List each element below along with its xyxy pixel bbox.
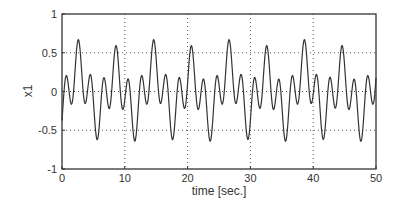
- y-tick-label: 0: [51, 86, 57, 98]
- x-tick-label: 50: [370, 172, 382, 184]
- x-tick-label: 0: [59, 172, 65, 184]
- y-tick-label: 1: [51, 8, 57, 20]
- series-x1-line: [62, 40, 376, 142]
- y-tick-label: 0.5: [42, 47, 57, 59]
- y-axis-ticks: -1-0.500.51: [38, 8, 65, 175]
- x-tick-label: 20: [181, 172, 193, 184]
- line-chart: 01020304050 -1-0.500.51 time [sec.] x1: [0, 0, 399, 214]
- x-axis-label: time [sec.]: [192, 184, 247, 198]
- x-tick-label: 40: [307, 172, 319, 184]
- grid-lines: [62, 14, 376, 169]
- y-axis-label: x1: [21, 84, 35, 97]
- x-tick-label: 10: [119, 172, 131, 184]
- y-tick-label: -0.5: [38, 124, 57, 136]
- x-tick-label: 30: [244, 172, 256, 184]
- y-tick-label: -1: [47, 163, 57, 175]
